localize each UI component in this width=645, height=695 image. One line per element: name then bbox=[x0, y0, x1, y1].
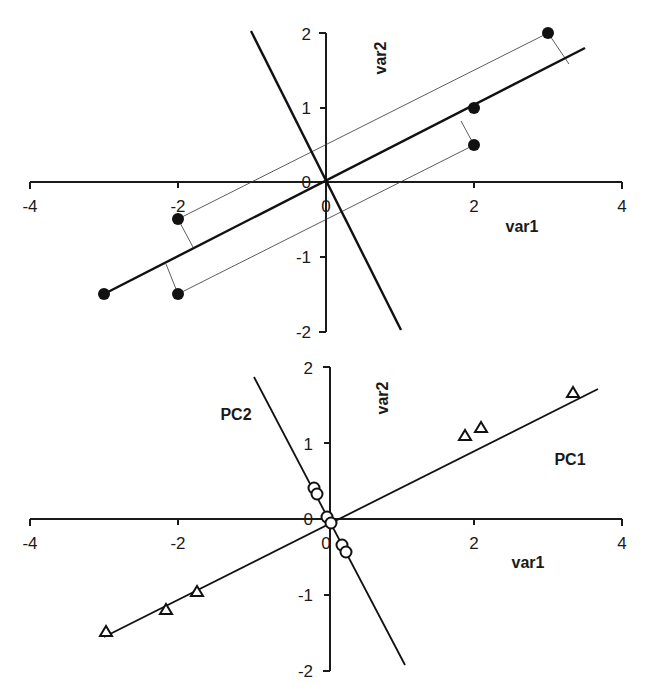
data-point bbox=[542, 27, 554, 39]
bottom-y-tick: -1 bbox=[298, 586, 313, 605]
triangle-point bbox=[567, 387, 579, 397]
circle-point bbox=[341, 547, 352, 558]
top-x-axis-label: var1 bbox=[506, 218, 539, 235]
triangle-point bbox=[160, 604, 172, 614]
bottom-x-tick: -4 bbox=[22, 534, 37, 553]
bottom-pc1-line bbox=[104, 389, 598, 637]
bottom-y-tick: 0 bbox=[304, 510, 313, 529]
circle-point bbox=[312, 489, 323, 500]
top-x-tick: -4 bbox=[22, 197, 37, 216]
top-y-tick: 1 bbox=[302, 99, 311, 118]
top-x-tick: 2 bbox=[469, 197, 478, 216]
bottom-x-tick: 4 bbox=[617, 534, 626, 553]
top-y-axis: 2 1 0 -1 -2 var2 bbox=[296, 25, 389, 342]
bottom-pc1-projections bbox=[100, 387, 579, 636]
top-x-axis: -4 -2 0 2 4 var1 bbox=[22, 182, 626, 235]
bottom-y-tick: 1 bbox=[304, 435, 313, 454]
triangle-point bbox=[475, 422, 487, 432]
data-point bbox=[98, 288, 110, 300]
data-point bbox=[172, 213, 184, 225]
triangle-point bbox=[100, 626, 112, 636]
bottom-chart: -4 -2 0 2 4 var1 2 1 0 -1 -2 var2 PC2 PC… bbox=[22, 359, 626, 681]
pc1-label: PC1 bbox=[554, 451, 585, 468]
top-pc1-line bbox=[104, 48, 585, 294]
bottom-x-tick: -2 bbox=[170, 534, 185, 553]
data-point bbox=[468, 102, 480, 114]
bottom-x-axis-label: var1 bbox=[512, 554, 545, 571]
data-point bbox=[468, 139, 480, 151]
bottom-y-axis-label: var2 bbox=[374, 381, 391, 414]
top-y-axis-label: var2 bbox=[372, 41, 389, 74]
circle-point bbox=[326, 518, 337, 529]
bottom-x-tick: 2 bbox=[469, 534, 478, 553]
top-y-tick: 2 bbox=[302, 25, 311, 44]
data-point bbox=[172, 288, 184, 300]
top-x-tick: 4 bbox=[617, 197, 626, 216]
pca-figure: -4 -2 0 2 4 var1 2 1 0 -1 -2 var2 bbox=[0, 0, 645, 695]
bottom-y-tick: -2 bbox=[298, 662, 313, 681]
top-chart: -4 -2 0 2 4 var1 2 1 0 -1 -2 var2 bbox=[22, 25, 626, 342]
top-projection-lines bbox=[166, 33, 569, 294]
top-y-tick: -1 bbox=[296, 248, 311, 267]
pc2-label: PC2 bbox=[220, 406, 251, 423]
bottom-y-tick: 2 bbox=[304, 359, 313, 378]
triangle-point bbox=[459, 430, 471, 440]
top-y-tick: -2 bbox=[296, 323, 311, 342]
